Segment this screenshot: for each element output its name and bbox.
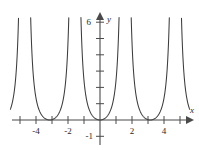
x-tick-label-neg2: -2 [64,126,72,136]
y-tick-label-6: 6 [87,17,92,27]
figure-container: 24-4-26-1xy [0,0,199,150]
function-plot: 24-4-26-1xy [0,0,199,150]
tick-labels-group: 24-4-26-1xy [32,14,194,141]
x-tick-label-neg4: -4 [32,126,40,136]
x-tick-label-4: 4 [162,126,167,136]
y-tick-label-neg1: -1 [86,131,94,141]
x-tick-label-2: 2 [130,126,135,136]
x-axis-label: x [189,105,194,115]
y-axis-label: y [106,14,111,24]
